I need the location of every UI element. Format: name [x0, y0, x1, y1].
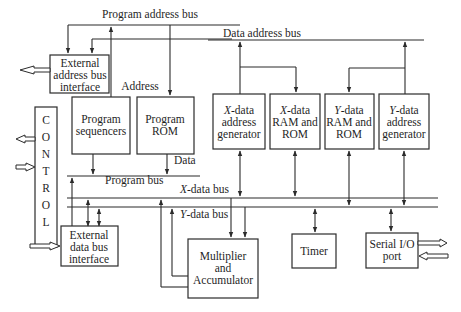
svg-text:Y-data: Y-data — [389, 104, 418, 116]
svg-text:O: O — [42, 199, 50, 211]
svg-text:External: External — [61, 57, 100, 69]
address-label: Address — [121, 80, 159, 92]
data-label: Data — [174, 154, 196, 166]
svg-text:Serial I/O: Serial I/O — [369, 238, 414, 250]
svg-text:ROM: ROM — [282, 128, 308, 140]
svg-text:sequencers: sequencers — [76, 125, 127, 138]
svg-text:address bus: address bus — [53, 69, 107, 81]
x-data-bus-label: X-data bus — [179, 183, 229, 195]
svg-text:External: External — [70, 229, 109, 241]
program-address-bus-label: Program address bus — [102, 8, 198, 21]
svg-text:X-data: X-data — [279, 104, 310, 116]
svg-text:and: and — [215, 262, 232, 274]
svg-text:interface: interface — [69, 253, 109, 265]
svg-text:X-data: X-data — [223, 104, 254, 116]
svg-text:N: N — [42, 148, 51, 160]
y-data-bus-label: Y-data bus — [180, 208, 229, 220]
svg-text:R: R — [42, 182, 50, 194]
svg-text:RAM and: RAM and — [272, 116, 318, 128]
svg-text:O: O — [42, 131, 50, 143]
external-data-bus-interface: External data bus interface — [61, 226, 118, 266]
svg-text:address: address — [387, 116, 422, 128]
y-data-ram-rom: Y-data RAM and ROM — [325, 94, 374, 149]
svg-text:ROM: ROM — [336, 128, 362, 140]
control-in-arrow-icon — [16, 163, 35, 171]
svg-text:Y-data: Y-data — [334, 104, 363, 116]
data-address-bus — [208, 40, 424, 94]
data-address-bus-label: Data address bus — [223, 27, 301, 39]
external-address-out-arrow-icon — [20, 66, 50, 74]
control-block: C O N T R O L — [35, 107, 57, 247]
program-sequencers: Program sequencers — [72, 97, 130, 154]
dsp-block-diagram: Program address bus Data address bus Ext… — [0, 0, 461, 312]
svg-text:C: C — [42, 114, 50, 126]
svg-text:Accumulator: Accumulator — [193, 274, 253, 286]
timer: Timer — [292, 234, 336, 268]
svg-text:generator: generator — [382, 128, 426, 141]
svg-text:Timer: Timer — [300, 245, 328, 257]
svg-text:interface: interface — [60, 81, 100, 93]
svg-text:generator: generator — [217, 128, 261, 141]
serial-io-port: Serial I/O port — [366, 233, 418, 268]
y-data-address-generator: Y-data address generator — [379, 94, 429, 149]
serial-out-arrow-icon — [418, 239, 447, 247]
svg-text:data bus: data bus — [70, 241, 109, 253]
external-data-bus-connections — [72, 178, 99, 226]
svg-text:L: L — [42, 216, 49, 228]
external-address-bus-interface: External address bus interface — [50, 55, 109, 93]
program-rom: Program ROM — [137, 97, 194, 154]
control-out-arrow-icon — [16, 135, 35, 143]
svg-text:ROM: ROM — [152, 125, 178, 137]
svg-text:T: T — [42, 165, 49, 177]
x-data-address-generator: X-data address generator — [213, 94, 265, 149]
multiplier-accumulator: Multiplier and Accumulator — [188, 239, 258, 298]
svg-text:address: address — [222, 116, 257, 128]
svg-text:RAM and: RAM and — [326, 116, 372, 128]
memory-bus-connections — [240, 151, 404, 205]
svg-text:port: port — [383, 250, 402, 263]
serial-in-arrow-icon — [419, 252, 448, 260]
x-data-ram-rom: X-data RAM and ROM — [270, 94, 320, 149]
